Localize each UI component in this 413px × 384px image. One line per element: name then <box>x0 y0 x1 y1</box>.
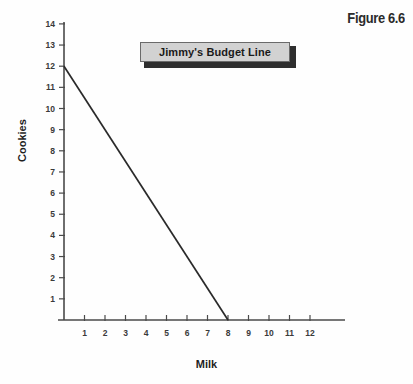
plot-area: 1234567891011121314 123456789101112 <box>0 0 413 384</box>
x-axis-ticks: 123456789101112 <box>82 315 315 338</box>
y-tick-label-2: 2 <box>50 273 55 283</box>
y-tick-label-12: 12 <box>46 61 56 71</box>
y-tick-label-4: 4 <box>50 230 55 240</box>
x-tick-label-12: 12 <box>305 328 315 338</box>
y-tick-label-8: 8 <box>50 146 55 156</box>
x-tick-label-4: 4 <box>144 328 149 338</box>
x-tick-label-8: 8 <box>226 328 231 338</box>
y-tick-label-13: 13 <box>46 40 56 50</box>
y-axis-title: Cookies <box>16 146 28 162</box>
data-series-group <box>64 66 228 320</box>
budget-line-series-0 <box>64 66 228 320</box>
x-tick-label-1: 1 <box>82 328 87 338</box>
x-tick-label-5: 5 <box>164 328 169 338</box>
x-axis-title: Milk <box>0 358 413 370</box>
y-axis-ticks: 1234567891011121314 <box>46 19 65 304</box>
y-tick-label-3: 3 <box>50 252 55 262</box>
y-tick-label-6: 6 <box>50 188 55 198</box>
x-tick-label-6: 6 <box>185 328 190 338</box>
x-tick-label-7: 7 <box>205 328 210 338</box>
x-tick-label-10: 10 <box>264 328 274 338</box>
y-tick-label-14: 14 <box>46 19 56 29</box>
x-tick-label-9: 9 <box>246 328 251 338</box>
y-tick-label-5: 5 <box>50 209 55 219</box>
axes-group <box>58 22 345 320</box>
x-tick-label-2: 2 <box>103 328 108 338</box>
figure-container: Figure 6.6 Jimmy's Budget Line 123456789… <box>0 0 413 384</box>
y-tick-label-7: 7 <box>50 167 55 177</box>
y-tick-label-9: 9 <box>50 125 55 135</box>
x-tick-label-11: 11 <box>285 328 294 338</box>
x-tick-label-3: 3 <box>123 328 128 338</box>
y-tick-label-11: 11 <box>46 82 55 92</box>
y-tick-label-10: 10 <box>46 104 56 114</box>
y-tick-label-1: 1 <box>50 294 55 304</box>
